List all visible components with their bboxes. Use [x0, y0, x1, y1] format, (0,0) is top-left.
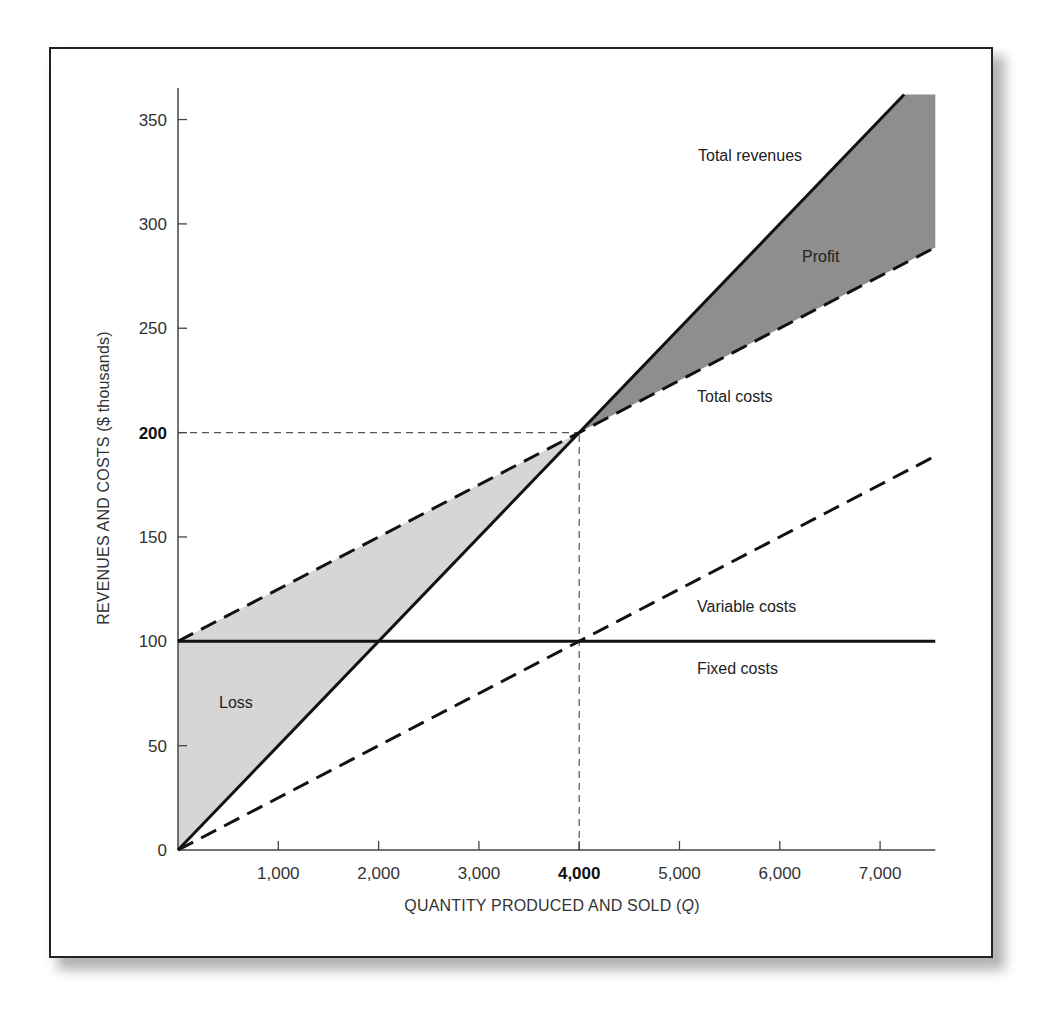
profit-region	[579, 95, 935, 433]
y-axis-title: REVENUES AND COSTS ($ thousands)	[95, 331, 112, 625]
x-axis-variable: Q	[682, 897, 695, 914]
variable-costs-label: Variable costs	[697, 598, 796, 615]
y-tick-label: 0	[158, 841, 167, 860]
total-costs-label: Total costs	[697, 388, 773, 405]
x-tick-label: 6,000	[759, 864, 802, 883]
x-tick-label: 1,000	[257, 864, 300, 883]
y-tick-label: 50	[148, 737, 167, 756]
x-tick-label: 5,000	[658, 864, 701, 883]
shaded-regions	[178, 95, 935, 851]
x-axis-title: QUANTITY PRODUCED AND SOLD (Q)	[404, 897, 700, 914]
x-tick-label: 7,000	[859, 864, 902, 883]
total-revenues-label: Total revenues	[698, 147, 802, 164]
break-even-chart: 1,0002,0003,0004,0005,0006,0007,00005010…	[0, 0, 1041, 1015]
total-revenues-line	[178, 95, 904, 850]
y-tick-label: 250	[139, 319, 167, 338]
x-tick-label: 3,000	[458, 864, 501, 883]
x-tick-label: 4,000	[558, 864, 601, 883]
x-tick-label: 2,000	[357, 864, 400, 883]
fixed-costs-label: Fixed costs	[697, 660, 778, 677]
x-axis-title-suffix: )	[694, 897, 700, 914]
y-tick-label: 100	[139, 632, 167, 651]
x-axis-title-text: QUANTITY PRODUCED AND SOLD (	[404, 897, 682, 914]
y-tick-label: 350	[139, 111, 167, 130]
loss-label: Loss	[219, 694, 253, 711]
y-tick-label: 200	[139, 424, 167, 443]
y-tick-label: 150	[139, 528, 167, 547]
profit-label: Profit	[802, 248, 840, 265]
y-tick-label: 300	[139, 215, 167, 234]
